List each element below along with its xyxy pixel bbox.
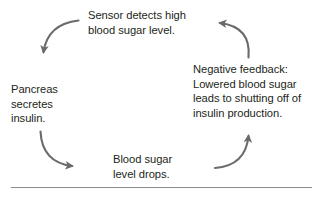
arrow-negative-feedback-to-sensor <box>220 23 249 58</box>
node-label-pancreas: Pancreas secretes insulin. <box>11 82 81 126</box>
arrow-drops-to-negative-feedback <box>215 136 249 168</box>
arrow-pancreas-to-drops <box>41 132 73 167</box>
horizontal-divider <box>11 187 312 188</box>
arrow-sensor-to-pancreas <box>44 21 79 53</box>
node-label-sensor: Sensor detects high blood sugar level. <box>88 8 204 37</box>
diagram-canvas: Sensor detects high blood sugar level. P… <box>0 0 324 199</box>
node-label-blood-sugar-drops: Blood sugar level drops. <box>113 152 203 181</box>
node-label-negative-feedback: Negative feedback: Lowered blood sugar l… <box>193 62 317 120</box>
